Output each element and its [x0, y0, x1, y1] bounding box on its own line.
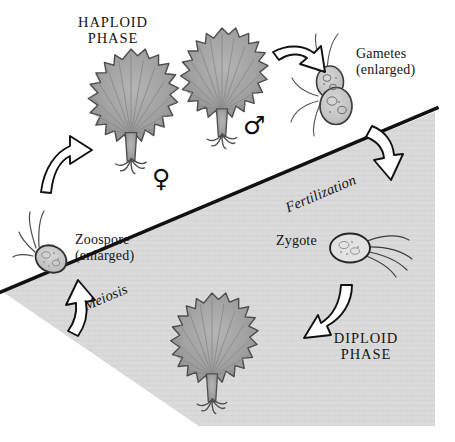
female-thallus — [88, 49, 178, 173]
haploid-phase-line1: HAPLOID — [78, 14, 148, 30]
gametes-label-line2: (enlarged) — [356, 62, 415, 77]
haploid-phase-label: HAPLOIDPHASE — [58, 14, 168, 46]
haploid-phase-line2: PHASE — [88, 30, 138, 46]
gamete-cell-lower — [320, 88, 352, 125]
zygote-label: Zygote — [276, 233, 317, 249]
diploid-phase-line2: PHASE — [341, 346, 391, 362]
zoospore-to-gametophyte-arrow — [41, 136, 92, 193]
zoospore-illustration — [13, 211, 71, 278]
zygote-cell — [330, 234, 370, 263]
zoospore-label: Zoospore(enlarged) — [75, 232, 134, 263]
gametes-label-line1: Gametes — [356, 46, 406, 61]
gamete-release-arrow — [273, 46, 325, 72]
diploid-phase-line1: DIPLOID — [334, 330, 398, 346]
gametes-label: Gametes(enlarged) — [356, 46, 415, 77]
zoospore-label-line2: (enlarged) — [75, 248, 134, 263]
diploid-phase-label: DIPLOIDPHASE — [313, 330, 419, 362]
algae-life-cycle-figure: HAPLOIDPHASE DIPLOIDPHASE Gametes(enlarg… — [0, 0, 455, 442]
zoospore-label-line1: Zoospore — [75, 232, 129, 247]
female-symbol-icon: ♀ — [152, 166, 170, 191]
male-symbol-icon: ♂ — [243, 113, 265, 138]
